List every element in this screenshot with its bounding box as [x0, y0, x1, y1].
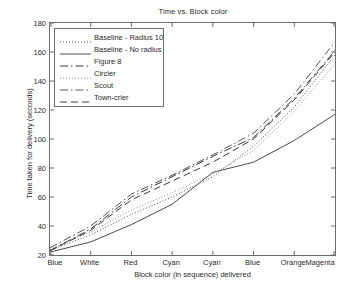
legend-line-sample: [59, 33, 92, 43]
legend-line-sample: [59, 57, 92, 67]
series-line: [50, 114, 335, 252]
y-tick-label: 120: [24, 106, 46, 115]
legend-item-label: Baseline - Radius 10: [94, 33, 163, 43]
x-axis-label: Block color (in sequence) delivered: [49, 270, 336, 279]
y-tick-label: 140: [24, 77, 46, 86]
x-tick-label: Blue: [47, 258, 62, 267]
y-tick-label: 20: [24, 251, 46, 260]
legend-item-label: Figure 8: [94, 57, 122, 67]
legend-line-sample: [59, 81, 92, 91]
legend-item[interactable]: Baseline - Radius 10: [55, 32, 163, 44]
x-tick-label: Magenta: [305, 258, 334, 267]
chart-legend[interactable]: Baseline - Radius 10Baseline - No radius…: [54, 28, 164, 107]
legend-line-sample: [59, 45, 92, 55]
legend-item-label: Circler: [94, 69, 116, 79]
y-tick-label: 40: [24, 222, 46, 231]
figure-canvas: Time vs. Block color Time taken for deli…: [0, 0, 361, 294]
x-tick-label: Orange: [281, 258, 306, 267]
x-tick-label: White: [80, 258, 99, 267]
legend-item[interactable]: Baseline - No radius: [55, 44, 163, 56]
y-tick-label: 60: [24, 193, 46, 202]
y-axis-tick-labels: 20406080100120140160180: [21, 22, 46, 256]
legend-item[interactable]: Circler: [55, 68, 163, 80]
legend-item-label: Scout: [94, 81, 113, 91]
x-axis-tick-labels: BlueWhiteRedCyanCyanBlueOrangeMagenta: [49, 258, 336, 270]
x-tick-label: Cyan: [162, 258, 180, 267]
legend-item-label: Baseline - No radius: [94, 45, 162, 55]
x-tick-label: Cyan: [203, 258, 221, 267]
y-tick-label: 100: [24, 135, 46, 144]
legend-line-sample: [59, 93, 92, 103]
y-tick-label: 80: [24, 164, 46, 173]
chart-title: Time vs. Block color: [49, 7, 337, 16]
legend-item[interactable]: Scout: [55, 80, 163, 92]
legend-item[interactable]: Town-crier: [55, 92, 163, 104]
x-tick-label: Red: [124, 258, 138, 267]
legend-item-label: Town-crier: [94, 93, 129, 103]
legend-line-sample: [59, 69, 92, 79]
legend-item[interactable]: Figure 8: [55, 56, 163, 68]
x-tick-label: Blue: [245, 258, 260, 267]
y-axis-label-wrapper: Time taken for delivery (seconds): [8, 22, 20, 256]
y-tick-label: 160: [24, 48, 46, 57]
y-tick-label: 180: [24, 19, 46, 28]
